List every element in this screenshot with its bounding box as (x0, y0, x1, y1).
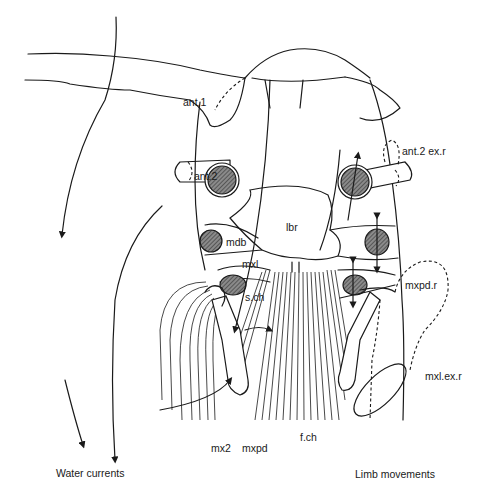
label-mxpd-r: mxpd.r (405, 280, 437, 291)
label-lbr: lbr (286, 222, 298, 233)
antenna-2-right (338, 140, 412, 220)
maxilliped-right (338, 288, 395, 390)
label-ant2-exr: ant.2 ex.r (402, 146, 446, 157)
label-ant2: ant.2 (194, 171, 217, 182)
label-sch: s.ch (245, 292, 264, 303)
caption-limb-movements: Limb movements (355, 469, 435, 480)
label-mxl-ex-r: mxl.ex.r (425, 371, 462, 382)
label-mxpd: mxpd (242, 443, 268, 454)
label-fch: f.ch (300, 432, 317, 443)
antenna-1 (25, 53, 245, 126)
maxilla-2-setae (160, 282, 218, 420)
label-mx2: mx2 (211, 443, 231, 454)
label-mxl: mxl (242, 259, 258, 270)
label-mdb: mdb (226, 237, 246, 248)
label-ant1: ant.1 (183, 97, 206, 108)
caption-water-currents: Water currents (56, 468, 124, 479)
